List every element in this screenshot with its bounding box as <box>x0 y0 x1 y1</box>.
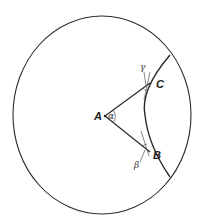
leader-beta <box>140 150 145 162</box>
label-beta: β <box>133 160 139 170</box>
label-gamma: γ <box>140 62 146 72</box>
point-a-dot <box>104 115 106 117</box>
tangent-at-b <box>141 131 149 156</box>
geometry-diagram: A C B α γ β <box>0 0 201 220</box>
label-b: B <box>153 149 161 161</box>
leader-gamma <box>144 72 146 86</box>
label-alpha: α <box>108 111 114 121</box>
label-a: A <box>93 110 102 122</box>
side-ab <box>105 116 150 152</box>
angle-mark-beta <box>143 144 147 146</box>
label-c: C <box>156 78 165 90</box>
outer-circle <box>13 16 191 214</box>
